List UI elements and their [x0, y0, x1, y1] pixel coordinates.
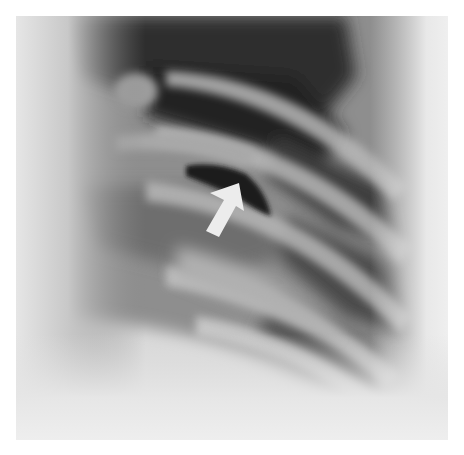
arrow-icon — [0, 0, 464, 455]
